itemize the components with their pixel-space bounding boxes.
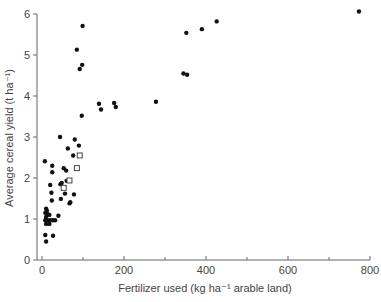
filled-circle-marker [63,191,67,195]
data-points [43,9,361,243]
y-tick-label: 6 [24,8,30,20]
open-square-marker [77,153,82,158]
filled-circle-marker [184,31,188,35]
filled-circle-marker [50,164,54,168]
filled-circle-marker [43,159,47,163]
x-tick-label: 0 [39,264,45,276]
filled-circle-marker [80,63,84,67]
filled-circle-marker [185,72,189,76]
open-square-marker [67,178,72,183]
filled-circle-marker [64,168,68,172]
filled-circle-marker [99,107,103,111]
filled-circle-marker [357,9,361,13]
y-tick-label: 4 [24,90,30,102]
filled-circle-marker [56,214,60,218]
filled-circle-marker [77,143,81,147]
open-square-marker [74,166,79,171]
filled-circle-marker [66,146,70,150]
filled-circle-marker [214,19,218,23]
filled-circle-marker [51,234,55,238]
filled-circle-marker [154,100,158,104]
filled-circle-marker [49,191,53,195]
filled-circle-marker [97,102,101,106]
filled-circle-marker [75,47,79,51]
scatter-chart: 01234560200400600800 Fertilizer used (kg… [0,0,381,302]
x-tick-label: 200 [115,264,133,276]
filled-circle-marker [78,67,82,71]
filled-circle-marker [112,101,116,105]
open-square-marker [61,185,66,190]
filled-circle-marker [53,218,57,222]
filled-circle-marker [44,239,48,243]
y-tick-label: 0 [24,254,30,266]
y-tick-label: 3 [24,131,30,143]
y-tick-label: 5 [24,49,30,61]
x-tick-label: 800 [361,264,379,276]
filled-circle-marker [43,233,47,237]
filled-circle-marker [50,198,54,202]
filled-circle-marker [80,24,84,28]
filled-circle-marker [47,222,51,226]
filled-circle-marker [58,135,62,139]
y-tick-label: 2 [24,172,30,184]
chart-canvas: 01234560200400600800 Fertilizer used (kg… [0,0,381,302]
x-tick-label: 400 [197,264,215,276]
filled-circle-marker [114,105,118,109]
filled-circle-marker [80,113,84,117]
filled-circle-marker [48,183,52,187]
filled-circle-marker [59,197,63,201]
x-axis-label: Fertilizer used (kg ha⁻¹ arable land) [118,282,292,294]
x-tick-label: 600 [279,264,297,276]
filled-circle-marker [71,153,75,157]
filled-circle-marker [72,192,76,196]
filled-circle-marker [50,170,54,174]
filled-circle-marker [67,201,71,205]
y-tick-label: 1 [24,213,30,225]
filled-circle-marker [73,137,77,141]
filled-circle-marker [200,27,204,31]
y-axis-label: Average cereal yield (t ha⁻¹) [3,69,15,207]
